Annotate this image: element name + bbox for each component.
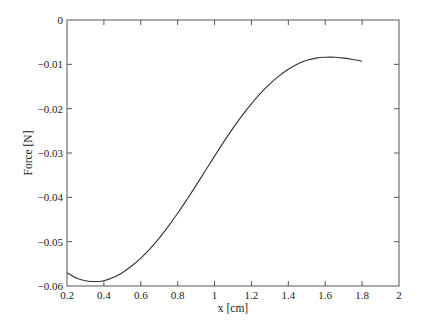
x-tick-label: 0.4 [97,289,111,301]
force-curve [67,57,362,281]
y-axis-label: Force [N] [22,130,34,175]
x-tick-label: 1.8 [355,289,369,301]
x-tick-label: 1.4 [281,289,295,301]
x-tick-labels: 0.20.40.60.811.21.41.61.82 [60,289,402,301]
x-axis-label: x [cm] [218,302,248,314]
x-tick-label: 1.2 [245,289,259,301]
y-tick-label: −0.02 [38,103,63,115]
force-vs-x-chart: 0.20.40.60.811.21.41.61.82 0−0.01−0.02−0… [0,0,421,329]
x-tick-label: 2 [396,289,402,301]
y-tick-label: −0.06 [38,280,64,292]
plot-frame [67,20,399,286]
y-tick-label: −0.04 [38,191,64,203]
y-tick-label: −0.01 [38,58,63,70]
y-tick-label: 0 [58,14,64,26]
y-tick-label: −0.05 [38,236,64,248]
x-tick-label: 0.6 [134,289,148,301]
x-tick-label: 1.6 [318,289,332,301]
y-tick-labels: 0−0.01−0.02−0.03−0.04−0.05−0.06 [38,14,64,292]
axis-ticks [67,20,399,286]
x-tick-label: 1 [212,289,218,301]
x-tick-label: 0.8 [171,289,185,301]
y-tick-label: −0.03 [38,147,64,159]
